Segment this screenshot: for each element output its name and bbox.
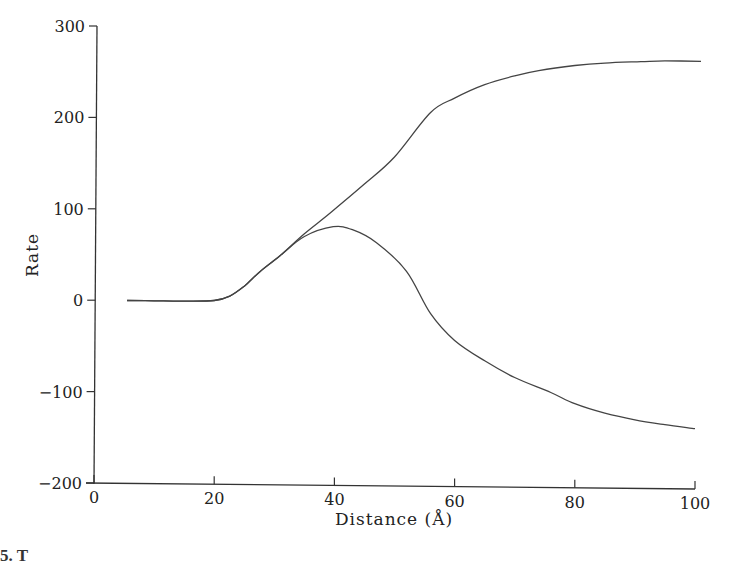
axes bbox=[86, 26, 695, 489]
upper-curve bbox=[127, 61, 701, 301]
x-tick-label: 20 bbox=[204, 489, 224, 508]
y-tick-label: 0 bbox=[73, 291, 83, 310]
x-tick-label: 80 bbox=[565, 493, 585, 512]
chart: −200−1000100200300020406080100 Distance … bbox=[0, 0, 731, 564]
y-tick-label: −200 bbox=[38, 474, 82, 493]
x-tick-label: 100 bbox=[680, 494, 711, 513]
y-tick-label: 200 bbox=[54, 108, 85, 127]
x-tick-label: 40 bbox=[324, 490, 344, 509]
y-axis-title: Rate bbox=[22, 233, 42, 277]
y-tick-label: −100 bbox=[39, 383, 83, 402]
figure-caption-fragment: 5. T bbox=[0, 546, 28, 564]
y-tick-label: 300 bbox=[54, 17, 85, 36]
series bbox=[127, 61, 701, 429]
x-axis-line bbox=[86, 483, 695, 489]
y-axis-line bbox=[94, 26, 97, 484]
y-tick-label: 100 bbox=[53, 200, 84, 219]
ticks: −200−1000100200300020406080100 bbox=[38, 17, 710, 513]
x-tick-label: 60 bbox=[444, 492, 464, 511]
x-axis-title: Distance (Å) bbox=[335, 509, 453, 529]
lower-curve bbox=[127, 226, 695, 428]
x-tick-label: 0 bbox=[89, 488, 99, 507]
